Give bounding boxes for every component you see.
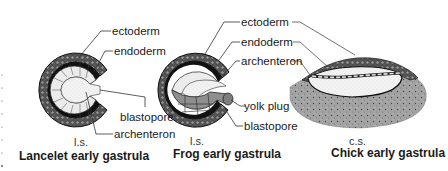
lancelet-label-endoderm: endoderm	[114, 45, 166, 57]
frog-label-endoderm: endoderm	[241, 36, 293, 48]
frog-label-blastopore: blastopore	[244, 120, 298, 132]
edge-marks	[1, 74, 3, 167]
lancelet-label-archenteron: archenteron	[114, 128, 175, 140]
lancelet-label-blastopore: blastopore	[120, 111, 174, 123]
lancelet-label-ectoderm: ectoderm	[112, 25, 160, 37]
frog-label-ectoderm: ectoderm	[241, 16, 289, 28]
frog-section-type: l.s.	[190, 135, 204, 147]
chick-gastrula-drawing	[290, 22, 426, 128]
frog-label-yolk-plug: yolk plug	[244, 100, 289, 112]
gastrula-comparison-figure: ectoderm endoderm blastopore archenteron…	[0, 0, 448, 171]
lancelet-section-type: l.s.	[74, 136, 88, 148]
lancelet-caption: Lancelet early gastrula	[19, 150, 149, 163]
frog-caption: Frog early gastrula	[173, 148, 281, 161]
chick-caption: Chick early gastrula	[331, 147, 445, 160]
frog-label-archenteron: archenteron	[241, 55, 302, 67]
